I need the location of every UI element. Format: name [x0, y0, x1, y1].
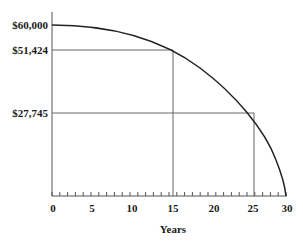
amortization-chart: $60,000 $51,424 $27,745 0 5 10 15 20 25 …: [0, 0, 303, 245]
x-label-20: 20: [209, 202, 221, 214]
x-label-25: 25: [248, 202, 260, 214]
x-label-10: 10: [127, 202, 139, 214]
y-label-27745: $27,745: [12, 107, 48, 119]
x-label-30: 30: [282, 202, 294, 214]
x-label-15: 15: [168, 202, 180, 214]
x-label-5: 5: [89, 202, 95, 214]
y-label-60000: $60,000: [12, 19, 48, 31]
balance-curve: [52, 25, 286, 196]
x-label-0: 0: [50, 202, 56, 214]
x-axis-title: Years: [160, 223, 187, 235]
y-label-51424: $51,424: [12, 44, 48, 56]
x-axis-ticks: [52, 192, 286, 196]
